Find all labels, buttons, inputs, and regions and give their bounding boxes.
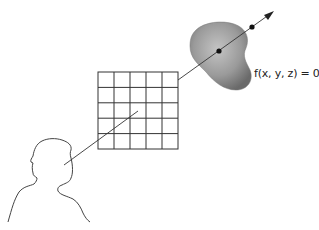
intersection-point-1 bbox=[216, 48, 221, 53]
image-plane-grid bbox=[98, 72, 178, 149]
viewer-head-silhouette bbox=[8, 139, 90, 222]
intersection-point-2 bbox=[249, 24, 254, 29]
ray-casting-diagram bbox=[0, 0, 319, 230]
arrowhead-icon bbox=[264, 11, 274, 20]
implicit-surface-blob bbox=[190, 22, 251, 90]
surface-equation-label: f(x, y, z) = 0 bbox=[254, 67, 319, 80]
ray-segment-eye bbox=[64, 111, 138, 165]
